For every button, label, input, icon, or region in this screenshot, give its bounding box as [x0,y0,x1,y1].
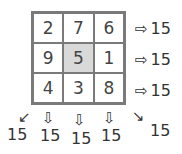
anti-diagonal-sum: 15 [7,125,27,144]
row-sum-3: ⇨ 15 [135,81,171,100]
cell-1-1-center: 5 [63,43,93,73]
cell-2-2: 8 [94,73,124,103]
arrow-right-icon: ⇨ [135,20,148,38]
arrow-down-icon: ⇩ [42,109,55,127]
cell-0-1: 7 [63,13,93,43]
column-sum-2: 15 [71,129,91,148]
row-sum-value: 15 [151,50,171,69]
row-sum-1: ⇨ 15 [135,19,171,38]
cell-2-1: 3 [63,73,93,103]
cell-0-2: 6 [94,13,124,43]
cell-1-0: 9 [33,43,63,73]
arrow-down-left-icon: ↙ [18,108,31,126]
row-sum-2: ⇨ 15 [135,50,171,69]
arrow-right-icon: ⇨ [135,82,148,100]
magic-square-grid: 2 7 6 9 5 1 4 3 8 [31,11,126,105]
arrow-down-icon: ⇩ [73,111,86,129]
arrow-down-right-icon: ↘ [132,107,145,125]
cell-2-0: 4 [33,73,63,103]
arrow-right-icon: ⇨ [135,51,148,69]
column-sum-3: 15 [101,126,121,145]
cell-1-2: 1 [94,43,124,73]
column-sum-1: 15 [40,126,60,145]
row-sum-value: 15 [151,19,171,38]
main-diagonal-sum: 15 [150,121,170,140]
arrow-down-icon: ⇩ [103,109,116,127]
row-sum-value: 15 [151,81,171,100]
cell-0-0: 2 [33,13,63,43]
